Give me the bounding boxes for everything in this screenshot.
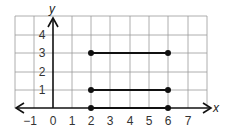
svg-text:3: 3 [107, 114, 114, 128]
svg-text:2: 2 [39, 65, 46, 79]
y-axis [48, 18, 58, 108]
svg-text:4: 4 [127, 114, 134, 128]
x-tick-labels: −1 0 1 2 3 4 5 6 7 [23, 114, 192, 128]
svg-text:1: 1 [39, 83, 46, 97]
endpoints [88, 50, 171, 111]
segments [91, 53, 168, 108]
svg-text:7: 7 [185, 114, 192, 128]
svg-text:5: 5 [146, 114, 153, 128]
y-axis-label: y [48, 2, 56, 16]
svg-text:3: 3 [39, 46, 46, 60]
svg-text:0: 0 [50, 114, 57, 128]
svg-text:−1: −1 [23, 114, 37, 128]
svg-text:6: 6 [165, 114, 172, 128]
y-tick-labels: 4 3 2 1 [39, 28, 46, 97]
svg-text:4: 4 [39, 28, 46, 42]
svg-text:1: 1 [69, 114, 76, 128]
svg-text:2: 2 [88, 114, 95, 128]
coordinate-graph: y x 4 3 2 1 −1 0 1 2 3 4 5 6 7 [0, 0, 230, 133]
x-axis-label: x [212, 101, 220, 115]
